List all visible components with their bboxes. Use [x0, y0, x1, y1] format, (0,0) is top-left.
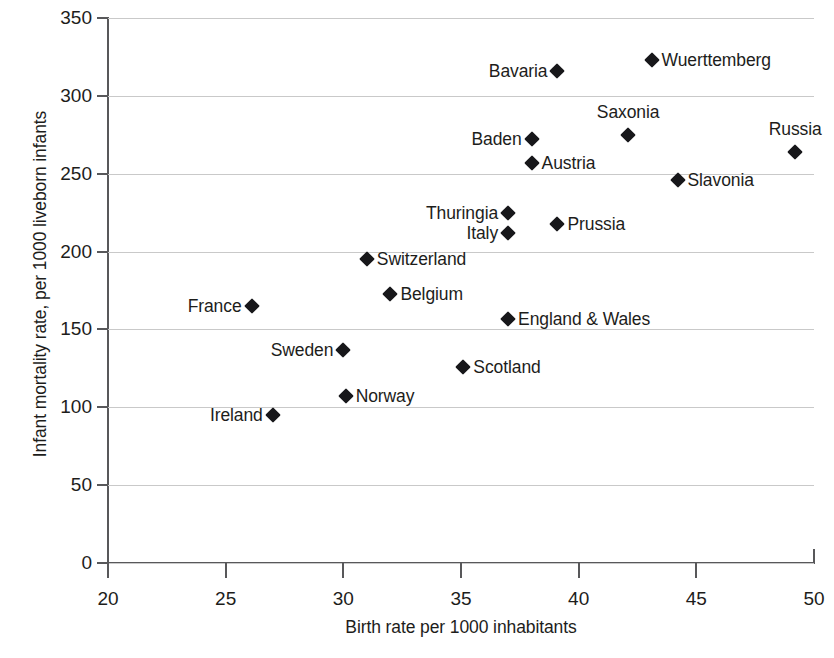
- data-point-marker[interactable]: [359, 252, 375, 268]
- data-point-marker[interactable]: [338, 389, 354, 405]
- y-axis-tick-label: 50: [71, 474, 92, 496]
- y-axis-tick-label: 300: [60, 85, 92, 107]
- data-point-label: Ireland: [210, 405, 263, 426]
- data-point-label: Thuringia: [426, 202, 498, 223]
- x-axis-tick-label: 30: [333, 588, 354, 610]
- y-axis-tick-label: 200: [60, 241, 92, 263]
- data-point-label: Baden: [471, 129, 521, 150]
- data-point-marker[interactable]: [524, 155, 540, 171]
- gridline-horizontal: [108, 485, 814, 486]
- data-point-marker[interactable]: [336, 342, 352, 358]
- data-point-label: France: [188, 296, 242, 317]
- y-axis-tick: [97, 17, 108, 19]
- data-point-marker[interactable]: [550, 63, 566, 79]
- plot-area: 05010015020025030035020253035404550Wuert…: [108, 18, 814, 563]
- y-axis-tick: [97, 173, 108, 175]
- data-point-label: Bavaria: [489, 60, 548, 81]
- data-point-marker[interactable]: [500, 205, 516, 221]
- data-point-marker[interactable]: [787, 144, 803, 160]
- data-point-marker[interactable]: [383, 286, 399, 302]
- data-point-marker[interactable]: [265, 407, 281, 423]
- y-axis-tick: [97, 484, 108, 486]
- data-point-marker[interactable]: [244, 298, 260, 314]
- x-axis-tick-label: 35: [450, 588, 471, 610]
- y-axis-tick: [97, 95, 108, 97]
- gridline-horizontal: [108, 18, 814, 19]
- x-axis-tick-label: 50: [803, 588, 824, 610]
- y-axis-tick-label: 350: [60, 7, 92, 29]
- data-point-marker[interactable]: [524, 132, 540, 148]
- data-point-marker[interactable]: [550, 216, 566, 232]
- x-axis-title: Birth rate per 1000 inhabitants: [108, 617, 814, 638]
- data-point-label: Norway: [356, 386, 415, 407]
- x-axis-tick-label: 45: [686, 588, 707, 610]
- x-axis-tick-label: 20: [97, 588, 118, 610]
- data-point-label: Italy: [466, 222, 498, 243]
- data-point-label: Scotland: [473, 356, 540, 377]
- data-point-marker[interactable]: [644, 52, 660, 68]
- y-axis-tick-label: 250: [60, 163, 92, 185]
- y-axis-tick: [97, 328, 108, 330]
- x-axis-tick-label: 25: [215, 588, 236, 610]
- data-point-label: Austria: [542, 152, 596, 173]
- y-axis-tick: [97, 406, 108, 408]
- x-axis-tick: [107, 563, 109, 578]
- x-axis-tick: [695, 563, 697, 578]
- data-point-marker[interactable]: [456, 359, 472, 375]
- x-axis-tick: [460, 563, 462, 578]
- data-point-label: Russia: [769, 118, 822, 139]
- data-point-label: Belgium: [400, 283, 463, 304]
- scatter-plot-figure: Infant mortality rate, per 1000 liveborn…: [0, 0, 834, 658]
- y-axis-tick-label: 150: [60, 318, 92, 340]
- gridline-horizontal: [108, 96, 814, 97]
- data-point-label: Saxonia: [597, 101, 660, 122]
- gridline-horizontal: [108, 329, 814, 330]
- x-axis-tick: [342, 563, 344, 578]
- data-point-marker[interactable]: [500, 311, 516, 327]
- y-axis-tick: [97, 251, 108, 253]
- data-point-label: Switzerland: [377, 249, 466, 270]
- data-point-label: Wuerttemberg: [662, 50, 771, 71]
- y-axis-tick-label: 0: [81, 552, 92, 574]
- data-point-label: Sweden: [271, 339, 334, 360]
- x-axis-tick: [225, 563, 227, 578]
- data-point-label: England & Wales: [518, 308, 650, 329]
- data-point-marker[interactable]: [500, 225, 516, 241]
- x-axis-tick-label: 40: [568, 588, 589, 610]
- y-axis-title: Infant mortality rate, per 1000 liveborn…: [24, 0, 56, 584]
- data-point-marker[interactable]: [620, 127, 636, 143]
- data-point-label: Slavonia: [688, 169, 754, 190]
- y-axis-tick-label: 100: [60, 396, 92, 418]
- x-axis-tick: [578, 563, 580, 578]
- data-point-label: Prussia: [567, 213, 625, 234]
